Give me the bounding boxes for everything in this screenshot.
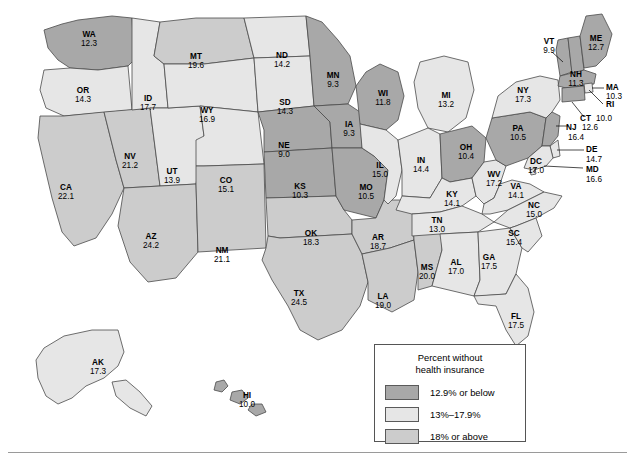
state-MN[interactable] — [306, 16, 356, 106]
legend-item-low: 12.9% or below — [385, 382, 525, 402]
label-CT-value: 10.0 — [596, 114, 612, 123]
legend-title: Percent without health insurance — [375, 352, 525, 376]
state-OR[interactable] — [40, 66, 132, 116]
state-WA[interactable] — [44, 16, 134, 70]
label-VT-abbr: VT — [544, 37, 554, 46]
label-MD-abbr: MD — [586, 165, 599, 174]
state-ND[interactable] — [244, 16, 310, 58]
state-WY[interactable] — [164, 58, 258, 112]
legend-swatch-high — [385, 429, 419, 444]
legend-title-line1: Percent without — [375, 352, 525, 364]
label-CT-abbr: CT — [580, 114, 591, 123]
leader-line-md — [544, 166, 583, 168]
label-NM-value: 21.1 — [214, 255, 230, 264]
state-NY[interactable] — [492, 76, 560, 118]
label-DE-value: 14.7 — [586, 155, 602, 164]
state-SD[interactable] — [254, 56, 314, 112]
state-TX[interactable] — [262, 234, 368, 340]
state-MT[interactable] — [154, 18, 254, 64]
leader-line-ct — [572, 102, 584, 117]
label-RI-abbr: RI — [606, 100, 614, 109]
legend-item-mid: 13%–17.9% — [385, 404, 525, 424]
label-DE-abbr: DE — [586, 145, 598, 154]
us-map-svg: WA 12.3 OR 14.3 CA 22.1 NV 21.2 ID 17.7 … — [0, 0, 635, 465]
legend-label-low: 12.9% or below — [430, 387, 495, 398]
label-MD-value: 16.6 — [586, 175, 602, 184]
label-RI-value: 16.4 — [568, 133, 584, 142]
label-NJ-abbr: NJ — [566, 123, 576, 132]
legend-swatch-mid — [385, 407, 419, 422]
legend-label-mid: 13%–17.9% — [430, 409, 481, 420]
state-AZ[interactable] — [118, 184, 198, 282]
legend-rows: 12.9% or below 13%–17.9% 18% or above — [375, 382, 525, 446]
state-KS[interactable] — [264, 148, 336, 198]
map-legend: Percent without health insurance 12.9% o… — [374, 344, 526, 442]
label-MA-value: 10.3 — [606, 92, 622, 101]
state-AK[interactable] — [36, 330, 152, 416]
state-IN[interactable] — [398, 128, 442, 198]
state-HI[interactable] — [214, 380, 266, 416]
bottom-divider — [8, 452, 627, 453]
choropleth-map-figure: WA 12.3 OR 14.3 CA 22.1 NV 21.2 ID 17.7 … — [0, 0, 635, 465]
legend-swatch-low — [385, 385, 419, 400]
state-MI[interactable] — [414, 56, 474, 132]
leader-line-ri — [589, 90, 603, 104]
label-NJ-value: 12.6 — [582, 123, 598, 132]
label-MA-abbr: MA — [606, 83, 619, 92]
legend-title-line2: health insurance — [375, 364, 525, 376]
legend-item-high: 18% or above — [385, 426, 525, 446]
state-OK[interactable] — [266, 196, 352, 238]
state-ME[interactable] — [580, 14, 612, 68]
state-CT[interactable] — [562, 86, 585, 102]
state-NM[interactable] — [196, 164, 266, 252]
legend-label-high: 18% or above — [430, 431, 488, 442]
state-RI[interactable] — [584, 83, 593, 93]
state-CO[interactable] — [196, 106, 264, 166]
state-WI[interactable] — [356, 64, 404, 130]
